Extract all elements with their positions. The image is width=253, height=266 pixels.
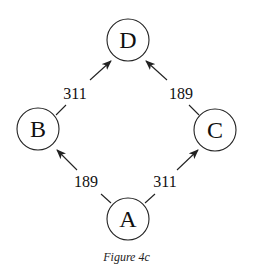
node-b-label: B: [30, 116, 46, 142]
node-d: D: [107, 19, 149, 61]
figure-caption: Figure 4c: [0, 250, 253, 265]
edge-a-b-head: [57, 150, 77, 170]
edge-b-to-d: 311: [56, 61, 111, 115]
node-a-label: A: [119, 206, 137, 232]
node-a: A: [107, 198, 149, 240]
edge-a-to-b: 189: [57, 150, 111, 203]
edge-c-to-d: 189: [146, 61, 199, 115]
edge-weight-a-c: 311: [153, 173, 176, 190]
edge-b-d-head: [90, 61, 111, 80]
node-c-label: C: [207, 117, 223, 143]
edge-b-d-tail: [56, 105, 66, 115]
directed-graph: 311 189 189 311 D B C A: [0, 0, 253, 266]
edge-a-to-c: 311: [145, 150, 198, 203]
edge-weight-a-b: 189: [74, 173, 98, 190]
node-d-label: D: [119, 27, 136, 53]
edge-c-d-head: [146, 61, 167, 80]
edge-a-c-tail: [145, 194, 155, 203]
edge-a-b-tail: [101, 194, 111, 203]
edge-c-d-tail: [189, 105, 199, 115]
node-c: C: [194, 109, 236, 151]
edge-weight-c-d: 189: [169, 85, 193, 102]
edge-a-c-head: [177, 150, 198, 170]
edge-weight-b-d: 311: [63, 85, 86, 102]
node-b: B: [17, 108, 59, 150]
